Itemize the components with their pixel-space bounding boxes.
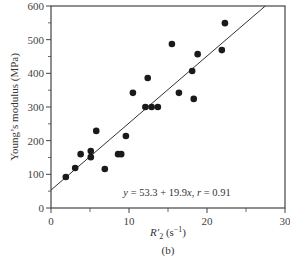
data-point [118,151,125,158]
data-point [87,148,94,155]
y-tick-label: 300 [28,101,45,113]
y-tick-label: 500 [28,34,45,46]
scatter-chart: 0100200300400500600 0102030 y = 53.3 + 1… [0,0,290,259]
x-tick-label: 0 [48,215,54,227]
y-axis-label: Young’s modulus (MPa) [8,53,21,161]
data-point [219,47,226,54]
data-point [142,104,149,111]
x-axis-label-unit: (s [163,226,174,239]
x-axis-label: R′2 (s−1) [149,225,186,241]
y-tick-label: 100 [28,168,45,180]
data-point [169,41,176,48]
regression-line [51,6,265,190]
regression-equation: y = 53.3 + 19.9x, r = 0.91 [122,187,230,198]
data-point [144,75,151,82]
x-tick-label: 20 [202,215,214,227]
data-point [222,20,229,27]
subfigure-label: (b) [162,244,175,257]
y-tick-label: 600 [28,0,45,12]
data-points [63,20,229,180]
data-point [63,174,70,181]
data-point [77,151,84,158]
x-tick-label: 10 [124,215,136,227]
data-point [87,154,94,161]
data-point [194,51,201,58]
data-point [72,165,79,172]
y-tick-label: 200 [28,135,45,147]
data-point [130,90,137,97]
x-axis-label-superscript: −1 [174,225,183,234]
data-point [155,104,162,111]
data-point [93,128,100,135]
x-axis-label-close: ) [182,226,186,239]
data-point [123,133,130,140]
x-tick-label: 30 [280,215,291,227]
plot-border [51,6,285,208]
data-point [102,166,109,173]
data-point [189,68,196,75]
data-point [148,104,155,111]
y-axis-ticks: 0100200300400500600 [28,0,52,214]
y-tick-label: 400 [28,67,45,79]
data-point [176,90,183,97]
x-axis-ticks: 0102030 [48,208,290,227]
plot-frame [51,6,285,208]
data-point [190,96,197,103]
y-tick-label: 0 [39,202,45,214]
fit-line [51,6,265,190]
